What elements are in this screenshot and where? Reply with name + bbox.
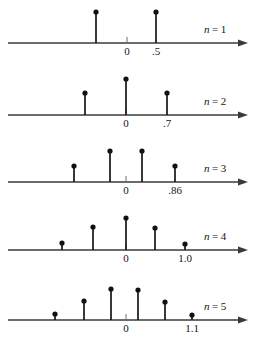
stem-point-marker <box>107 148 112 153</box>
stem-panel-canvas <box>0 0 256 337</box>
origin-tick-label: 0 <box>124 45 130 57</box>
panel-label-variable: n <box>204 162 210 174</box>
panel-label-equals: = <box>210 95 221 107</box>
value-tick-label: .86 <box>168 184 182 196</box>
panel-label-variable: n <box>204 300 210 312</box>
panel-label-equals: = <box>210 230 221 242</box>
axis-arrowhead-icon <box>238 40 248 47</box>
stem-plot-figure: 0.5n=10.7n=20.86n=301.0n=401.1n=5 <box>0 0 256 337</box>
stem-point-marker <box>123 215 128 220</box>
stem-point-marker <box>135 287 140 292</box>
stem-point-marker <box>162 299 167 304</box>
panel-label-n: n=1 <box>204 23 227 35</box>
stem-panel: 01.0n=4 <box>0 0 256 337</box>
panel-label-n: n=4 <box>204 230 227 242</box>
panel-label-n: n=3 <box>204 162 227 174</box>
value-tick-label: .5 <box>152 45 160 57</box>
stem-point-marker <box>153 9 158 14</box>
panel-label-equals: = <box>210 23 221 35</box>
stem-panel: 0.86n=3 <box>0 0 256 337</box>
stem-point-marker <box>182 241 187 246</box>
panel-label-value: 3 <box>221 162 227 174</box>
stem-panel: 01.1n=5 <box>0 0 256 337</box>
panel-label-equals: = <box>210 162 221 174</box>
axis-arrowhead-icon <box>238 247 248 254</box>
stem-point-marker <box>71 163 76 168</box>
panel-label-variable: n <box>204 23 210 35</box>
panel-label-value: 5 <box>221 300 227 312</box>
origin-tick-label: 0 <box>123 184 129 196</box>
stem-point-marker <box>81 298 86 303</box>
stem-point-marker <box>172 163 177 168</box>
stem-panel-canvas <box>0 0 256 337</box>
stem-point-marker <box>93 9 98 14</box>
origin-tick-label: 0 <box>123 252 129 264</box>
panel-label-n: n=2 <box>204 95 227 107</box>
panel-label-value: 4 <box>221 230 227 242</box>
axis-arrowhead-icon <box>238 179 248 186</box>
stem-panel-canvas <box>0 0 256 337</box>
stem-point-marker <box>52 311 57 316</box>
axis-arrowhead-icon <box>238 112 248 119</box>
panel-label-variable: n <box>204 95 210 107</box>
stem-panel-canvas <box>0 0 256 337</box>
origin-tick-label: 0 <box>123 117 129 129</box>
stem-point-marker <box>123 76 128 81</box>
axis-arrowhead-icon <box>238 317 248 324</box>
panel-label-variable: n <box>204 230 210 242</box>
stem-point-marker <box>189 312 194 317</box>
panel-label-value: 1 <box>221 23 227 35</box>
stem-point-marker <box>139 148 144 153</box>
panel-label-equals: = <box>210 300 221 312</box>
stem-panel: 0.5n=1 <box>0 0 256 337</box>
stem-point-marker <box>82 90 87 95</box>
value-tick-label: 1.0 <box>178 252 192 264</box>
stem-point-marker <box>59 240 64 245</box>
panel-label-n: n=5 <box>204 300 227 312</box>
stem-point-marker <box>164 90 169 95</box>
stem-point-marker <box>90 224 95 229</box>
value-tick-label: .7 <box>163 117 171 129</box>
stem-panel-canvas <box>0 0 256 337</box>
stem-point-marker <box>108 286 113 291</box>
origin-tick-label: 0 <box>123 322 129 334</box>
value-tick-label: 1.1 <box>185 322 199 334</box>
panel-label-value: 2 <box>221 95 227 107</box>
stem-panel: 0.7n=2 <box>0 0 256 337</box>
stem-point-marker <box>152 225 157 230</box>
